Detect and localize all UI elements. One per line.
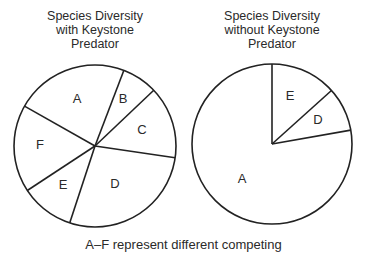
slice-label-d: D — [313, 112, 322, 127]
slice-label-c: C — [137, 122, 146, 137]
caption: A–F represent different competing — [0, 237, 367, 252]
slice-label-e: E — [59, 177, 68, 192]
pie-charts: ABCDEF EDA — [0, 0, 367, 255]
slice-label-d: D — [110, 176, 119, 191]
slice-label-f: F — [36, 137, 44, 152]
slice-label-a: A — [73, 91, 82, 106]
pie-chart-without-predator: EDA — [192, 64, 352, 224]
slice-label-e: E — [286, 88, 295, 103]
pie-chart-with-predator: ABCDEF — [14, 65, 176, 227]
slice-label-a: A — [238, 171, 247, 186]
slice-label-b: B — [119, 91, 128, 106]
